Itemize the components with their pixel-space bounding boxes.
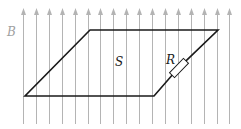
arrow-up-icon (98, 8, 103, 15)
arrow-up-icon (163, 8, 168, 15)
arrow-up-icon (176, 8, 181, 15)
field-label-b: B (7, 26, 16, 38)
resistor-label-r: R (166, 54, 175, 66)
arrow-up-icon (111, 8, 116, 15)
arrow-up-icon (73, 8, 78, 15)
magnetic-field-lines (21, 8, 232, 124)
arrow-up-icon (124, 8, 129, 15)
arrow-up-icon (137, 8, 142, 15)
arrow-up-icon (227, 8, 232, 15)
arrow-up-icon (215, 8, 220, 15)
arrow-up-icon (47, 8, 52, 15)
arrow-up-icon (34, 8, 39, 15)
arrow-up-icon (86, 8, 91, 15)
arrow-up-icon (202, 8, 207, 15)
arrow-up-icon (60, 8, 65, 15)
magnetic-field-diagram: B S R (0, 0, 241, 129)
arrow-up-icon (189, 8, 194, 15)
arrow-up-icon (150, 8, 155, 15)
area-label-s: S (115, 56, 123, 68)
arrow-up-icon (21, 8, 26, 15)
